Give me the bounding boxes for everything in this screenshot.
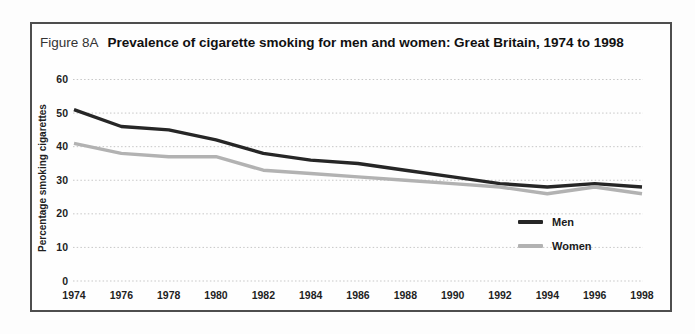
- legend-item-men: Men: [518, 215, 658, 229]
- x-tick-label: 1976: [110, 289, 134, 301]
- x-tick-label: 1992: [488, 289, 512, 301]
- line-chart: 0102030405060197419761978198019821984198…: [32, 24, 670, 310]
- x-tick-label: 1996: [583, 289, 607, 301]
- legend-label-men: Men: [552, 216, 574, 228]
- legend-item-women: Women: [518, 239, 658, 253]
- y-tick-label: 60: [56, 73, 68, 85]
- y-tick-label: 0: [62, 275, 68, 287]
- chart-area: 0102030405060197419761978198019821984198…: [32, 24, 670, 310]
- y-tick-label: 20: [56, 207, 68, 219]
- women-line-swatch: [518, 244, 543, 248]
- x-tick-label: 1986: [346, 289, 370, 301]
- x-tick-label: 1974: [62, 289, 86, 301]
- y-tick-label: 10: [56, 241, 68, 253]
- legend-label-women: Women: [552, 240, 592, 252]
- figure-title: Prevalence of cigarette smoking for men …: [108, 35, 624, 50]
- x-tick-label: 1980: [204, 289, 228, 301]
- x-tick-label: 1988: [394, 289, 418, 301]
- y-tick-label: 50: [56, 107, 68, 119]
- x-tick-label: 1984: [299, 289, 323, 301]
- figure-box: 0102030405060197419761978198019821984198…: [30, 22, 672, 312]
- men-line-swatch: [518, 220, 543, 224]
- x-tick-label: 1990: [441, 289, 465, 301]
- figure-label: Figure 8A: [40, 35, 99, 50]
- legend: Men Women: [518, 215, 658, 263]
- x-tick-label: 1982: [252, 289, 276, 301]
- x-tick-label: 1998: [630, 289, 654, 301]
- y-axis-title: Percentage smoking cigarettes: [37, 104, 48, 252]
- x-tick-label: 1978: [157, 289, 181, 301]
- x-tick-label: 1994: [536, 289, 560, 301]
- title-row: Figure 8APrevalence of cigarette smoking…: [40, 35, 666, 50]
- y-tick-label: 40: [56, 140, 68, 152]
- y-tick-label: 30: [56, 174, 68, 186]
